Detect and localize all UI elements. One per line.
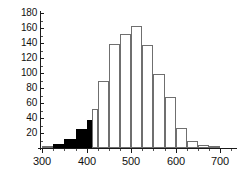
x-axis-tick — [176, 149, 177, 153]
x-axis-minor-tick — [231, 149, 232, 151]
x-axis-tick-label: 500 — [114, 155, 148, 167]
x-axis-tick-label: 700 — [203, 155, 237, 167]
x-axis-minor-tick — [98, 149, 99, 151]
y-axis-tick-label: 140 — [10, 38, 37, 48]
y-axis-tick-label: 80 — [10, 83, 37, 93]
histogram-bar — [198, 145, 209, 148]
histogram-bar — [64, 139, 75, 148]
x-axis-tick-label: 400 — [70, 155, 104, 167]
x-axis-minor-tick — [187, 149, 188, 151]
x-axis-minor-tick — [142, 149, 143, 151]
histogram-bar — [53, 144, 64, 149]
x-axis-minor-tick — [153, 149, 154, 151]
x-axis-tick-label: 600 — [159, 155, 193, 167]
x-axis-line — [38, 148, 237, 149]
y-axis-tick-label: 120 — [10, 53, 37, 63]
y-axis-tick-label: 60 — [10, 98, 37, 108]
y-axis-tick-label: 20 — [10, 128, 37, 138]
histogram-bar — [187, 141, 198, 148]
x-axis-minor-tick — [120, 149, 121, 151]
histogram-bars — [40, 13, 238, 148]
histogram-bar — [142, 45, 153, 148]
histogram-bar — [76, 129, 87, 149]
histogram-chart: 20406080100120140160180 300400500600700 — [0, 0, 242, 179]
x-axis-minor-tick — [209, 149, 210, 151]
x-axis-minor-tick — [109, 149, 110, 151]
histogram-bar — [42, 146, 53, 148]
x-axis-minor-tick — [64, 149, 65, 151]
histogram-bar — [153, 74, 164, 148]
y-axis-tick-label: 160 — [10, 23, 37, 33]
x-axis-minor-tick — [53, 149, 54, 151]
histogram-bar — [98, 81, 109, 149]
y-axis-tick-label: 100 — [10, 68, 37, 78]
histogram-bar — [131, 26, 142, 148]
y-axis-tick-label: 180 — [10, 8, 37, 18]
y-axis-tick-label: 40 — [10, 113, 37, 123]
histogram-bar — [176, 128, 187, 148]
histogram-bar — [120, 34, 131, 148]
x-axis-tick — [220, 149, 221, 153]
x-axis-tick — [131, 149, 132, 153]
histogram-bar — [209, 146, 220, 148]
x-axis-minor-tick — [165, 149, 166, 151]
histogram-bar — [165, 97, 176, 148]
histogram-bar — [109, 44, 120, 148]
histogram-bar — [87, 120, 92, 149]
x-axis-tick — [42, 149, 43, 153]
x-axis-tick-label: 300 — [25, 155, 59, 167]
x-axis-minor-tick — [76, 149, 77, 151]
x-axis-minor-tick — [198, 149, 199, 151]
x-axis-tick — [87, 149, 88, 153]
